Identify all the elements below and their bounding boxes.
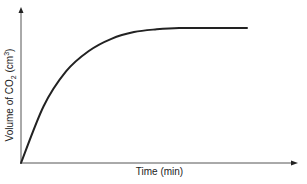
chart-plot <box>0 0 307 184</box>
co2-volume-curve <box>21 28 247 163</box>
y-axis-arrow-icon <box>19 7 24 13</box>
x-axis-arrow-icon <box>291 161 298 166</box>
y-axis-label: Volume of CO2 (cm3) <box>3 49 17 142</box>
x-axis-label: Time (min) <box>0 166 307 177</box>
